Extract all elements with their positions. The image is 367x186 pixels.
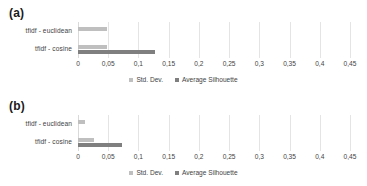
bar-group-a-0 (78, 22, 350, 40)
chart-panel-b: (b) tfidf - euclidean tfidf - cosine 00,… (0, 93, 367, 186)
x-axis-tick-label: 0,2 (194, 60, 203, 67)
x-axis-tick-label: 0,35 (283, 153, 296, 160)
bar-group-b-0 (78, 115, 350, 133)
plot-area-a (78, 22, 350, 58)
legend-swatch-icon (175, 171, 179, 175)
x-axis-tick-label: 0,3 (255, 153, 264, 160)
bar-average-silhouette (78, 143, 122, 147)
legend-item-average-silhouette: Average Silhouette (175, 76, 238, 83)
x-axis-tick-label: 0,4 (315, 153, 324, 160)
x-axis-tick-label: 0,15 (162, 153, 175, 160)
legend-label: Std. Dev. (136, 76, 163, 83)
legend-swatch-icon (175, 78, 179, 82)
legend-b: Std. Dev. Average Silhouette (0, 169, 367, 176)
legend-swatch-icon (129, 78, 133, 82)
x-axis-tick-label: 0,05 (102, 60, 115, 67)
category-axis-labels-b: tfidf - euclidean tfidf - cosine (0, 115, 72, 151)
x-axis-tick-label: 0,3 (255, 60, 264, 67)
legend-label: Average Silhouette (182, 76, 238, 83)
legend-swatch-icon (129, 171, 133, 175)
category-axis-labels-a: tfidf - euclidean tfidf - cosine (0, 22, 72, 58)
category-label: tfidf - cosine (0, 139, 72, 146)
silhouette-bar-chart-figure: (a) tfidf - euclidean tfidf - cosine 00,… (0, 0, 367, 186)
legend-item-std-dev: Std. Dev. (129, 169, 163, 176)
bar-std-dev (78, 27, 107, 31)
chart-panel-a: (a) tfidf - euclidean tfidf - cosine 00,… (0, 0, 367, 93)
gridline (350, 115, 351, 151)
x-axis-tick-label: 0,45 (344, 60, 357, 67)
x-axis-tick-label: 0 (76, 153, 80, 160)
category-label: tfidf - euclidean (0, 121, 72, 128)
x-axis-ticks-b: 00,050,10,150,20,250,30,350,40,45 (78, 153, 350, 165)
x-axis-ticks-a: 00,050,10,150,20,250,30,350,40,45 (78, 60, 350, 72)
bar-std-dev (78, 45, 107, 49)
x-axis-tick-label: 0,1 (134, 153, 143, 160)
bar-group-a-1 (78, 40, 350, 58)
bar-group-b-1 (78, 133, 350, 151)
legend-item-average-silhouette: Average Silhouette (175, 169, 238, 176)
x-axis-tick-label: 0,2 (194, 153, 203, 160)
category-label: tfidf - euclidean (0, 28, 72, 35)
category-label: tfidf - cosine (0, 46, 72, 53)
x-axis-tick-label: 0,05 (102, 153, 115, 160)
legend-a: Std. Dev. Average Silhouette (0, 76, 367, 83)
plot-area-b (78, 115, 350, 151)
x-axis-tick-label: 0 (76, 60, 80, 67)
x-axis-tick-label: 0,4 (315, 60, 324, 67)
panel-label-a: (a) (9, 6, 24, 20)
x-axis-tick-label: 0,1 (134, 60, 143, 67)
x-axis-tick-label: 0,15 (162, 60, 175, 67)
x-axis-tick-label: 0,25 (223, 153, 236, 160)
x-axis-tick-label: 0,45 (344, 153, 357, 160)
legend-item-std-dev: Std. Dev. (129, 76, 163, 83)
x-axis-tick-label: 0,25 (223, 60, 236, 67)
legend-label: Std. Dev. (136, 169, 163, 176)
bar-std-dev (78, 120, 85, 124)
x-axis-tick-label: 0,35 (283, 60, 296, 67)
gridline (350, 22, 351, 58)
panel-label-b: (b) (9, 99, 25, 113)
bar-average-silhouette (78, 50, 155, 54)
bar-std-dev (78, 138, 94, 142)
legend-label: Average Silhouette (182, 169, 238, 176)
